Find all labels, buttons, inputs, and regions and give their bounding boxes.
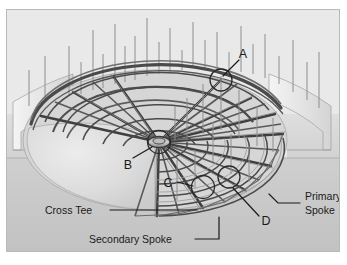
callout-label-a: A bbox=[239, 47, 248, 61]
label-primary-spoke-line2: Spoke bbox=[305, 204, 335, 216]
cable-dome-figure: A B C D Cross Tee Secondary Spoke Primar… bbox=[0, 0, 347, 265]
callout-label-b: B bbox=[124, 158, 132, 172]
callout-label-c: C bbox=[163, 176, 172, 190]
label-primary-spoke-line1: Primary bbox=[305, 190, 339, 202]
label-cross-tee: Cross Tee bbox=[45, 204, 92, 216]
illustration-canvas: A B C D Cross Tee Secondary Spoke Primar… bbox=[7, 10, 339, 251]
illustration-frame: A B C D Cross Tee Secondary Spoke Primar… bbox=[6, 9, 340, 252]
central-tension-hub bbox=[148, 137, 170, 148]
label-secondary-spoke: Secondary Spoke bbox=[89, 233, 172, 245]
callout-label-d: D bbox=[261, 214, 270, 228]
